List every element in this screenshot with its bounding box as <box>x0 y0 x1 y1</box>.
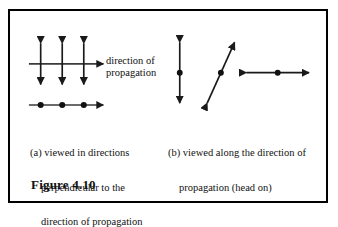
panel-a-group <box>29 43 103 108</box>
caption-b-line-1: (b) viewed along the direction of <box>168 147 306 159</box>
caption-b-line-2: propagation (head on) <box>168 182 306 194</box>
direction-of-propagation-label: direction of propagation <box>106 55 156 78</box>
caption-a-line-1: (a) viewed in directions <box>30 147 142 159</box>
head-on-dot-3 <box>81 102 87 108</box>
panel-b-group <box>177 42 309 103</box>
horizontal-polarization-center-dot <box>275 70 281 76</box>
figure-number-label: Figure 4.10 <box>31 179 96 191</box>
figure-panel: direction of propagation (a) viewed in d… <box>8 9 328 203</box>
head-on-dot-2 <box>59 102 65 108</box>
head-on-dot-1 <box>38 102 44 108</box>
caption-b: (b) viewed along the direction of propag… <box>168 124 306 213</box>
diagonal-polarization-center-dot <box>218 70 224 76</box>
vertical-polarization-center-dot <box>177 70 183 76</box>
caption-a: (a) viewed in directions perpendicular t… <box>30 124 142 213</box>
